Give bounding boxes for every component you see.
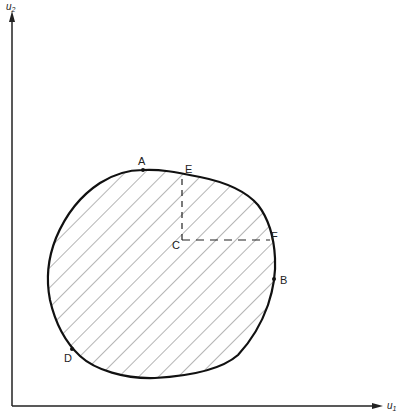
point-d-marker: [70, 347, 74, 351]
point-c-label: C: [172, 239, 180, 251]
utility-possibility-diagram: u2 u1 A E C F B D: [0, 0, 409, 418]
point-f-label: F: [271, 230, 278, 242]
point-a-marker: [141, 168, 145, 172]
point-d-label: D: [64, 352, 72, 364]
x-axis-arrow-icon: [372, 403, 383, 409]
point-e-label: E: [185, 163, 192, 175]
x-axis-label: u1: [387, 400, 397, 412]
point-a-label: A: [138, 155, 146, 167]
point-b-label: B: [280, 274, 287, 286]
point-b-marker: [272, 277, 276, 281]
feasible-region: [40, 160, 290, 390]
y-axis-label: u2: [6, 1, 16, 13]
